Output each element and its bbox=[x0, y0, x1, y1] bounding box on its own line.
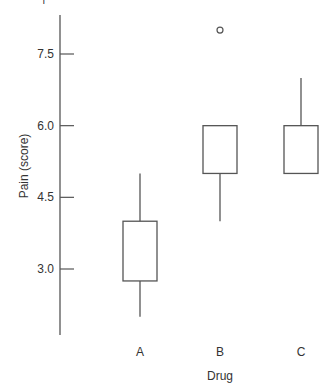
box-C bbox=[284, 126, 318, 174]
y-axis-label: Pain (score) bbox=[17, 121, 31, 211]
x-tick-label: A bbox=[125, 345, 155, 359]
box-B bbox=[203, 126, 237, 174]
x-tick-label: C bbox=[286, 345, 316, 359]
x-tick-label: B bbox=[205, 345, 235, 359]
box-plot-chart: | 3.04.56.07.5 ABC Pain (score) Drug bbox=[0, 0, 324, 385]
y-tick-label: 7.5 bbox=[20, 47, 54, 61]
y-tick-label: 3.0 bbox=[20, 262, 54, 276]
outlier-point bbox=[217, 27, 223, 33]
box-A bbox=[123, 221, 157, 281]
x-axis-label: Drug bbox=[205, 369, 235, 383]
